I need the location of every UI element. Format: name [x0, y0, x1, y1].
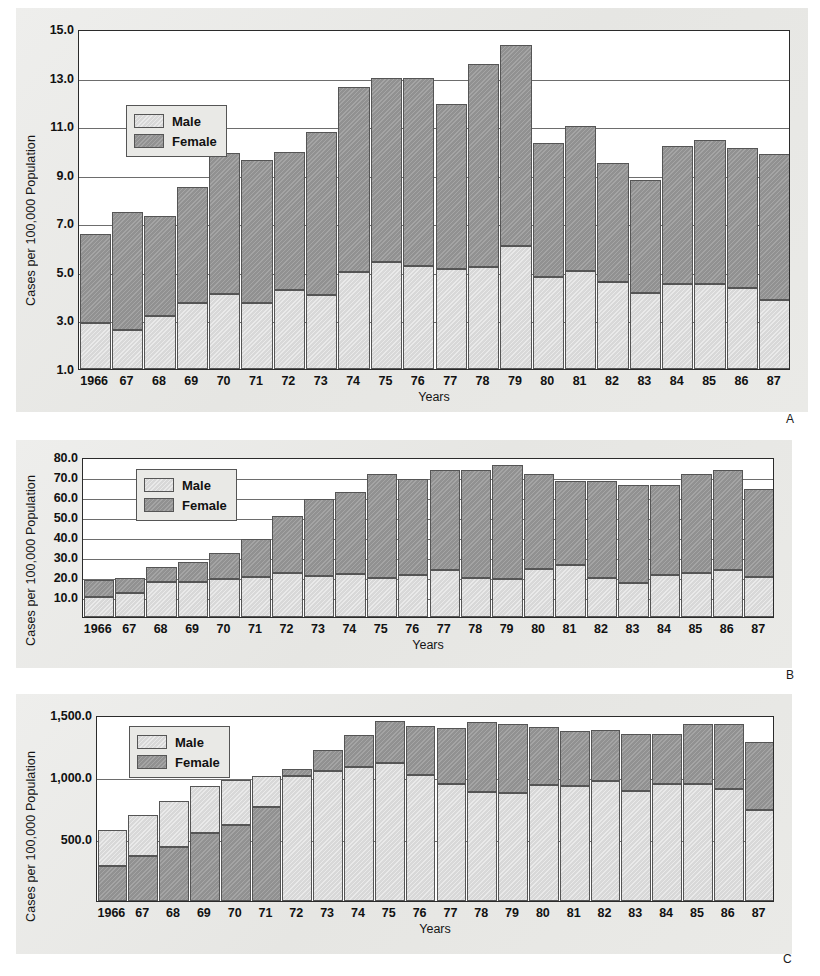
bar-segment-male	[492, 579, 522, 617]
bar-segment-male	[430, 570, 460, 617]
panel-c-y-axis-label: Cases per 100,000 Population	[24, 712, 38, 922]
bar-segment-female	[430, 470, 460, 570]
bar-segment-male	[375, 763, 405, 901]
bar-segment-female	[560, 731, 590, 786]
bar-segment-female	[565, 126, 596, 271]
bar-stack	[555, 459, 585, 617]
bar-segment-female	[591, 730, 621, 781]
bar-segment-male	[338, 272, 369, 369]
legend-label-female: Female	[172, 134, 217, 149]
bar-stack	[529, 717, 559, 901]
bar-stack	[683, 717, 713, 901]
bar-stack	[98, 717, 128, 901]
bar-stack	[681, 459, 711, 617]
bar-segment-male	[241, 577, 271, 617]
bar-segment-male	[587, 578, 617, 617]
bar-segment-female	[313, 750, 343, 772]
bar-stack	[498, 717, 528, 901]
bar-stack	[500, 31, 531, 369]
legend-swatch-female-icon	[144, 498, 174, 512]
bar-stack	[436, 31, 467, 369]
bar-segment-male	[555, 565, 585, 617]
bar-segment-male	[209, 579, 239, 617]
bar-stack	[344, 717, 374, 901]
bar-stack	[80, 31, 111, 369]
y-tick-label: 7.0	[16, 217, 74, 231]
y-tick-label: 500.0	[16, 833, 92, 847]
bar-segment-female	[274, 152, 305, 290]
bar-segment-female	[555, 481, 585, 565]
bar-segment-female	[436, 104, 467, 269]
bar-segment-male	[313, 771, 343, 901]
bar-segment-female	[144, 216, 175, 316]
legend-swatch-male-icon	[137, 735, 167, 749]
bar-segment-female	[282, 769, 312, 776]
bar-stack	[371, 31, 402, 369]
x-tick-label: 87	[738, 622, 778, 636]
bar-segment-male	[591, 781, 621, 901]
bar-segment-male	[744, 577, 774, 617]
bar-stack	[621, 717, 651, 901]
bar-segment-male	[524, 569, 554, 617]
panel-c: Cases per 100,000 Population 500.01,000.…	[16, 694, 792, 954]
bar-segment-male	[282, 776, 312, 901]
bar-segment-male	[437, 784, 467, 901]
y-tick-label: 1,000.0	[16, 771, 92, 785]
bar-stack	[461, 459, 491, 617]
bar-segment-female	[177, 187, 208, 304]
bar-stack	[177, 31, 208, 369]
legend-label-male: Male	[172, 114, 201, 129]
bar-segment-male	[335, 574, 365, 617]
bar-segment-male	[713, 570, 743, 617]
panel-a-legend: Male Female	[126, 105, 227, 157]
bar-segment-female	[533, 143, 564, 277]
bar-segment-male	[98, 830, 128, 866]
bar-stack	[694, 31, 725, 369]
bar-stack	[591, 717, 621, 901]
bar-segment-female	[403, 78, 434, 266]
panel-b: Cases per 100,000 Population 10.020.030.…	[16, 440, 792, 668]
bar-stack	[272, 459, 302, 617]
bar-segment-male	[467, 792, 497, 901]
bar-segment-female	[272, 516, 302, 574]
legend-row-male: Male	[134, 111, 217, 131]
bar-stack	[112, 31, 143, 369]
bar-segment-male	[759, 300, 790, 369]
bar-segment-male	[306, 295, 337, 369]
bar-segment-male	[652, 784, 682, 901]
panel-a: Cases per 100,000 Population 1.03.05.07.…	[16, 8, 808, 412]
bar-segment-female	[662, 146, 693, 284]
bar-stack	[524, 459, 554, 617]
bar-segment-female	[335, 492, 365, 574]
bar-segment-male	[367, 578, 397, 617]
bar-segment-male	[565, 271, 596, 369]
bar-segment-male	[500, 246, 531, 369]
bar-segment-male	[178, 582, 208, 617]
bar-segment-male	[115, 593, 145, 617]
bar-stack	[618, 459, 648, 617]
bar-segment-male	[681, 573, 711, 617]
bar-segment-female	[713, 470, 743, 570]
legend-swatch-female-icon	[134, 134, 164, 148]
bar-segment-female	[461, 470, 491, 578]
bar-segment-female	[84, 580, 114, 597]
bar-stack	[650, 459, 680, 617]
bar-stack	[306, 31, 337, 369]
y-tick-label: 80.0	[16, 451, 78, 465]
bar-segment-male	[177, 303, 208, 369]
bar-stack	[335, 459, 365, 617]
bar-stack	[759, 31, 790, 369]
bar-segment-male	[630, 293, 661, 370]
bar-stack	[375, 717, 405, 901]
y-tick-label: 11.0	[16, 120, 74, 134]
bar-segment-female	[338, 87, 369, 272]
bar-segment-male	[84, 597, 114, 617]
bar-stack	[744, 459, 774, 617]
bar-segment-male	[371, 262, 402, 369]
panel-b-x-axis-label: Years	[82, 638, 774, 652]
legend-label-female: Female	[182, 498, 227, 513]
panel-a-x-axis-label: Years	[78, 390, 790, 404]
panel-a-plot-area	[78, 30, 790, 370]
bar-segment-male	[560, 786, 590, 901]
y-tick-label: 1.0	[16, 363, 74, 377]
